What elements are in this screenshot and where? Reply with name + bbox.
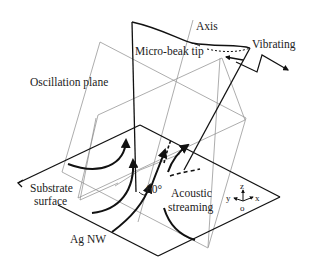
origin-label: o [240, 203, 245, 213]
streaming-label-line1: Acoustic [171, 187, 212, 199]
axis-label: Axis [196, 20, 218, 32]
angle-label: 60° [146, 183, 163, 195]
angle-marker [139, 192, 145, 195]
axis-z-label: z [240, 181, 244, 191]
axis-y-label: y [226, 193, 231, 203]
streaming-label-line2: streaming [168, 201, 214, 214]
axis-x-label: x [255, 193, 260, 203]
diagram: Axis Micro-beak tip Vibrating Oscillatio… [0, 0, 312, 272]
coordinate-axes [234, 190, 253, 201]
tip-label: Micro-beak tip [135, 45, 204, 58]
vibrating-arrow [236, 55, 288, 72]
oscillation-plane-label: Oscillation plane [30, 76, 108, 89]
vibrating-label: Vibrating [252, 38, 296, 51]
nanowire-label: Ag NW [70, 233, 106, 246]
substrate-label-line2: surface [34, 195, 67, 207]
substrate-label-line1: Substrate [30, 182, 73, 194]
